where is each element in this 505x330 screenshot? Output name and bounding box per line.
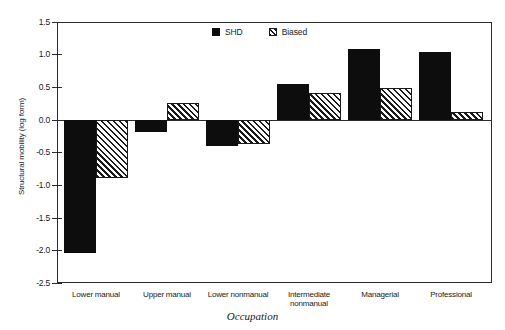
y-tick-mark [52, 87, 62, 88]
bar-biased-upper-manual [167, 103, 199, 120]
bar-shd-managerial [348, 49, 380, 120]
legend-label-biased: Biased [282, 27, 307, 37]
y-tick-label: -1.5 [8, 213, 50, 223]
y-tick-label: 1.0 [8, 49, 50, 59]
bar-shd-lower-nonmanual [206, 120, 238, 146]
y-tick-mark [52, 22, 62, 23]
bar-biased-lower-manual [96, 120, 128, 178]
y-tick-mark [52, 185, 62, 186]
y-tick-mark [52, 250, 62, 251]
bar-shd-lower-manual [64, 120, 96, 253]
y-tick-mark [52, 283, 62, 284]
chart-legend: SHD Biased [212, 27, 307, 37]
bar-biased-professional [451, 112, 483, 120]
y-tick-label: 1.5 [8, 17, 50, 27]
bar-biased-intermediate-nonmanual [309, 93, 341, 120]
x-tick-label-professional: Professional [391, 290, 505, 299]
y-tick-label: -2.5 [8, 278, 50, 288]
bar-biased-lower-nonmanual [238, 120, 270, 144]
legend-entry-shd: SHD [212, 27, 243, 37]
y-tick-label: -2.0 [8, 245, 50, 255]
y-tick-label: 0.0 [8, 115, 50, 125]
bar-biased-managerial [380, 88, 412, 120]
bar-shd-professional [419, 52, 451, 120]
x-axis-title: Occupation [0, 310, 505, 322]
chart-figure: 1.5 1.0 0.5 0.0 -0.5 -1.0 -1.5 -2.0 -2.5… [0, 0, 505, 330]
legend-swatch-biased-icon [269, 28, 277, 36]
y-tick-label: -0.5 [8, 147, 50, 157]
legend-swatch-shd-icon [212, 28, 220, 36]
legend-entry-biased: Biased [269, 27, 307, 37]
bar-shd-upper-manual [135, 120, 167, 132]
y-tick-mark [52, 152, 62, 153]
y-tick-mark [52, 54, 62, 55]
legend-label-shd: SHD [225, 27, 243, 37]
y-tick-mark [52, 218, 62, 219]
bar-shd-intermediate-nonmanual [277, 84, 309, 120]
y-axis-title: Structural mobility (log form) [17, 47, 26, 247]
y-tick-label: 0.5 [8, 82, 50, 92]
y-tick-label: -1.0 [8, 180, 50, 190]
